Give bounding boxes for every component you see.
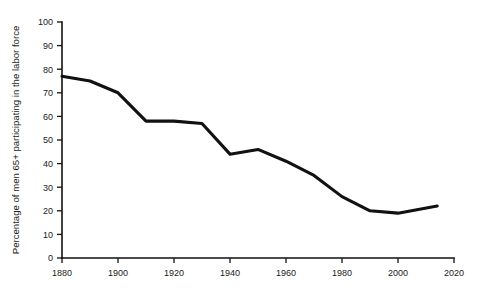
x-tick-label: 1880	[52, 268, 72, 278]
y-tick-label: 90	[43, 41, 53, 51]
data-series-group	[62, 76, 437, 213]
x-tick-label: 2020	[444, 268, 464, 278]
x-tick-label: 1980	[332, 268, 352, 278]
x-tick-label: 1940	[220, 268, 240, 278]
y-tick-label: 50	[43, 135, 53, 145]
y-tick-label: 0	[48, 253, 53, 263]
x-tick-label: 1920	[164, 268, 184, 278]
x-tick-label: 2000	[388, 268, 408, 278]
y-tick-label: 30	[43, 183, 53, 193]
y-tick-label: 80	[43, 65, 53, 75]
chart-canvas: Percentage of men 65+ participating in t…	[0, 0, 480, 301]
data-line-series	[62, 76, 437, 213]
y-axis-title: Percentage of men 65+ participating in t…	[10, 26, 21, 255]
y-tick-label: 10	[43, 230, 53, 240]
y-tick-label: 70	[43, 88, 53, 98]
y-tick-label: 100	[38, 17, 53, 27]
x-axis-ticks: 18801900192019401960198020002020	[52, 258, 464, 278]
x-tick-label: 1960	[276, 268, 296, 278]
y-tick-label: 60	[43, 112, 53, 122]
y-tick-label: 20	[43, 206, 53, 216]
y-tick-label: 40	[43, 159, 53, 169]
axes	[62, 22, 454, 258]
y-axis-ticks: 0102030405060708090100	[38, 17, 62, 263]
x-tick-label: 1900	[108, 268, 128, 278]
